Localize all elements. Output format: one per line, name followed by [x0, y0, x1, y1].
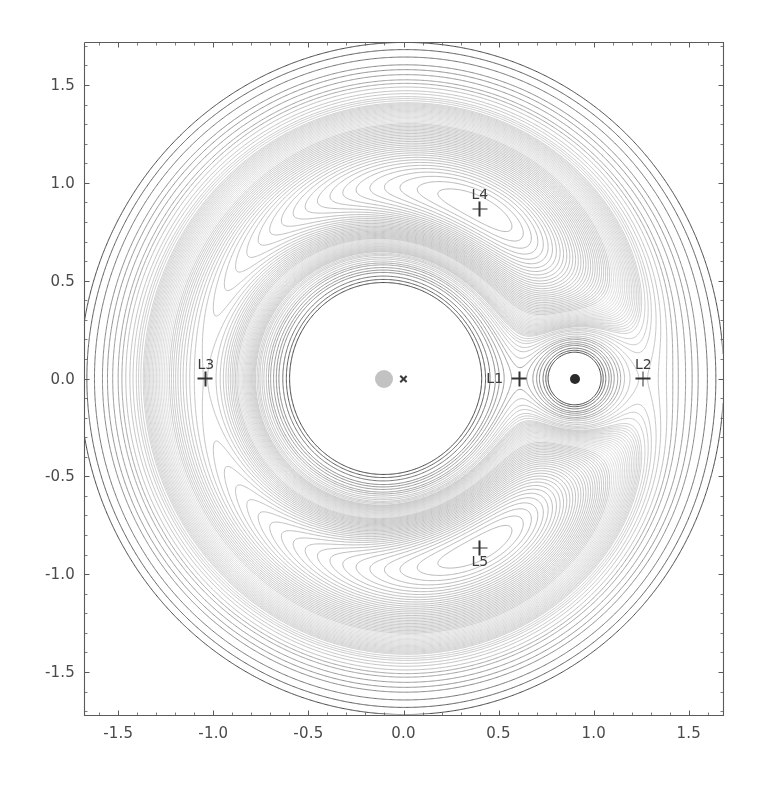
contour-plot-canvas	[0, 0, 769, 787]
contour-figure: -1.5-1.0-0.50.00.51.01.5-1.5-1.0-0.50.00…	[0, 0, 769, 787]
